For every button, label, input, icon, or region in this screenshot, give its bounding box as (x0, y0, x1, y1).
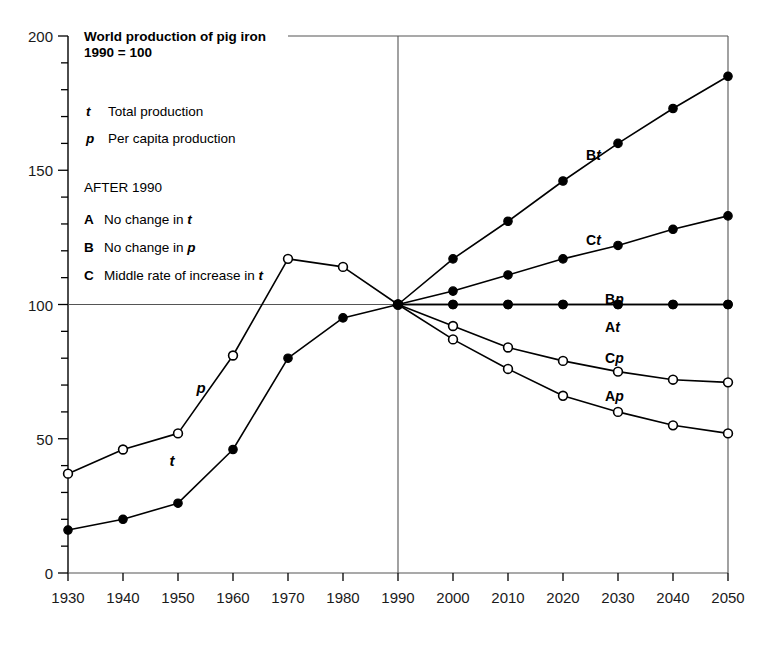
series-line-p (68, 259, 398, 474)
y-tick-label-150: 150 (28, 162, 53, 179)
x-tick-label-2020: 2020 (546, 589, 579, 606)
data-point-Bt-2020 (559, 177, 567, 185)
data-point-t-1950 (174, 499, 182, 507)
series-line-Cp (398, 305, 728, 383)
legend-scenario-label-B: No change in p (104, 240, 196, 255)
data-point-Cp-2050 (724, 378, 733, 387)
curve-label-Cp: Cp (605, 350, 624, 366)
data-point-Bp-2020 (559, 300, 567, 308)
legend-scenario-symbol-C: C (84, 268, 94, 283)
legend-label-p: Per capita production (108, 131, 236, 146)
legend-symbol-t: t (86, 104, 91, 119)
series-p (64, 254, 403, 478)
chart-title-line1: World production of pig iron (84, 29, 266, 44)
series-line-t (68, 305, 398, 531)
legend-scenario-symbol-B: B (84, 240, 94, 255)
y-tick-label-200: 200 (28, 28, 53, 45)
series-line-Bt (398, 76, 728, 304)
x-tick-label-2000: 2000 (436, 589, 469, 606)
x-tick-label-1950: 1950 (161, 589, 194, 606)
data-point-Cp-2000 (449, 322, 458, 331)
pig-iron-chart-figure: 0501001502001930194019501960197019801990… (0, 0, 767, 647)
series-Bp (398, 300, 732, 308)
curve-label-Ap: Ap (605, 388, 624, 404)
data-point-Bt-2040 (669, 104, 677, 112)
data-point-Bt-2010 (504, 217, 512, 225)
data-point-p-1930 (64, 469, 73, 478)
data-point-Ap-2000 (449, 335, 458, 344)
data-point-Ct-2020 (559, 255, 567, 263)
data-point-Bp-2050 (724, 300, 732, 308)
x-tick-label-2010: 2010 (491, 589, 524, 606)
data-point-p-1940 (119, 445, 128, 454)
legend-scenario-heading: AFTER 1990 (84, 180, 162, 195)
data-point-p-1970 (284, 254, 293, 263)
series-Bt (398, 72, 732, 304)
data-point-t-1960 (229, 445, 237, 453)
data-point-Ct-2050 (724, 212, 732, 220)
x-tick-label-1940: 1940 (106, 589, 139, 606)
data-point-Cp-2010 (504, 343, 513, 352)
t-curve-label: t (170, 452, 176, 469)
p-curve-label: p (195, 379, 205, 396)
data-point-t-1980 (339, 314, 347, 322)
x-tick-label-1980: 1980 (326, 589, 359, 606)
x-tick-label-1990: 1990 (381, 589, 414, 606)
data-point-Bp-2010 (504, 300, 512, 308)
data-point-Bt-2000 (449, 255, 457, 263)
data-point-Bt-2050 (724, 72, 732, 80)
curve-label-Bp: Bp (605, 291, 624, 307)
data-point-Ap-2050 (724, 429, 733, 438)
x-tick-label-2030: 2030 (601, 589, 634, 606)
series-Ct (398, 212, 732, 305)
x-tick-label-2040: 2040 (656, 589, 689, 606)
data-point-t-1930 (64, 526, 72, 534)
legend-scenario-symbol-A: A (84, 212, 94, 227)
data-point-Ct-2000 (449, 287, 457, 295)
series-Cp (398, 305, 732, 387)
curve-label-Bt: Bt (586, 147, 602, 163)
data-point-Ct-2040 (669, 225, 677, 233)
data-point-Bt-2030 (614, 139, 622, 147)
data-point-p-1960 (229, 351, 238, 360)
data-point-Cp-2020 (559, 356, 568, 365)
data-point-Ap-2040 (669, 421, 678, 430)
data-point-Bp-2000 (449, 300, 457, 308)
data-point-Ct-2030 (614, 241, 622, 249)
x-tick-label-1970: 1970 (271, 589, 304, 606)
curve-label-At: At (605, 319, 621, 335)
x-tick-label-1930: 1930 (51, 589, 84, 606)
chart-title-line2: 1990 = 100 (84, 45, 152, 60)
data-point-Bp-2040 (669, 300, 677, 308)
legend-scenario-label-A: No change in t (104, 212, 192, 227)
data-point-t-1970 (284, 354, 292, 362)
data-point-p-1950 (174, 429, 183, 438)
data-point-Ct-2010 (504, 271, 512, 279)
data-point-Cp-2040 (669, 375, 678, 384)
data-point-Ap-2020 (559, 391, 568, 400)
data-point-Cp-2030 (614, 367, 623, 376)
y-tick-label-0: 0 (45, 565, 53, 582)
legend-label-t: Total production (108, 104, 203, 119)
data-point-p-1980 (339, 263, 348, 272)
data-point-Ap-2030 (614, 408, 623, 417)
y-tick-label-50: 50 (36, 431, 53, 448)
x-tick-label-1960: 1960 (216, 589, 249, 606)
series-t (64, 300, 402, 534)
data-point-Ap-2010 (504, 365, 513, 374)
legend-scenario-label-C: Middle rate of increase in t (104, 268, 264, 283)
convergence-node-1990 (393, 300, 402, 309)
y-tick-label-100: 100 (28, 297, 53, 314)
curve-label-Ct: Ct (586, 232, 602, 248)
x-tick-label-2050: 2050 (711, 589, 744, 606)
data-point-t-1940 (119, 515, 127, 523)
legend-symbol-p: p (85, 131, 94, 146)
chart-canvas: 0501001502001930194019501960197019801990… (0, 0, 767, 647)
